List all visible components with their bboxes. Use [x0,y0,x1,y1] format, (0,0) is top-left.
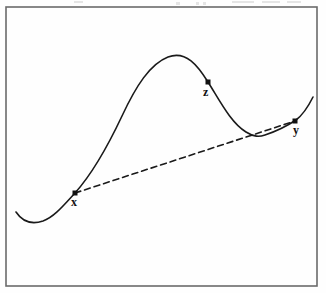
point-label-x: x [71,196,77,208]
figure-container: x z y [0,0,326,293]
point-marker-z [206,80,211,85]
point-marker-group [73,80,298,196]
function-curve [16,55,313,222]
curve-diagram-canvas [0,0,326,293]
figure-border [6,7,317,286]
secant-line [75,121,295,193]
point-label-z: z [203,86,208,98]
point-label-y: y [293,124,299,136]
